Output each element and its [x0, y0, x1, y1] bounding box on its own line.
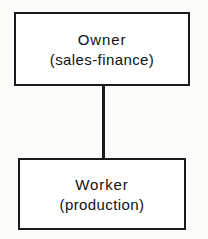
- node-owner-title: Owner: [78, 30, 127, 49]
- node-worker-title: Worker: [75, 175, 128, 194]
- node-worker: Worker (production): [18, 158, 186, 230]
- connector-owner-to-worker: [102, 84, 105, 160]
- node-owner-subtitle: (sales-finance): [50, 50, 154, 69]
- node-owner: Owner (sales-finance): [14, 12, 190, 86]
- node-worker-subtitle: (production): [60, 195, 145, 214]
- org-chart-diagram: Owner (sales-finance) Worker (production…: [0, 0, 208, 239]
